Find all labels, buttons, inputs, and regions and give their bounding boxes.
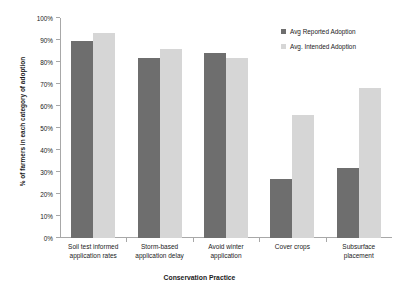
- x-axis-title: Conservation Practice: [0, 274, 399, 281]
- x-axis-category-label-line: Subsurface: [319, 243, 399, 252]
- bar: [204, 53, 226, 238]
- x-axis-category-label: Subsurfaceplacement: [319, 243, 399, 260]
- category-separator-tick: [193, 238, 194, 242]
- legend-item[interactable]: Avg. Intended Adoption: [281, 39, 399, 54]
- y-axis-tick-label: 40%: [40, 146, 53, 153]
- category-separator-tick: [259, 238, 260, 242]
- bar: [160, 49, 182, 238]
- bar-chart: % of farmers in each category of adoptio…: [0, 0, 399, 295]
- y-axis-tick: 90%: [56, 39, 60, 40]
- y-axis-tick-label: 80%: [40, 58, 53, 65]
- legend-item[interactable]: Avg Reported Adoption: [281, 24, 399, 39]
- y-axis-tick: 0%: [56, 237, 60, 238]
- y-axis-tick: 50%: [56, 127, 60, 128]
- legend-label: Avg. Intended Adoption: [290, 43, 356, 50]
- x-axis-category-label-line: placement: [319, 252, 399, 261]
- legend-swatch-icon: [281, 44, 286, 49]
- category-separator-tick: [326, 238, 327, 242]
- bar: [71, 41, 93, 238]
- y-axis-tick: 80%: [56, 61, 60, 62]
- y-axis-tick: 30%: [56, 171, 60, 172]
- y-axis-tick: 40%: [56, 149, 60, 150]
- y-axis-tick: 70%: [56, 83, 60, 84]
- bar: [93, 33, 115, 238]
- y-axis-tick: 20%: [56, 193, 60, 194]
- bar: [359, 88, 381, 238]
- bar: [138, 58, 160, 238]
- y-axis-tick-label: 20%: [40, 190, 53, 197]
- bar: [270, 179, 292, 238]
- y-axis-tick: 60%: [56, 105, 60, 106]
- y-axis-tick-label: 50%: [40, 124, 53, 131]
- x-axis-category-label-line: application: [186, 252, 266, 261]
- legend-swatch-icon: [281, 29, 286, 34]
- y-axis-title: % of farmers in each category of adoptio…: [19, 17, 26, 227]
- bar: [292, 115, 314, 238]
- y-axis-tick-label: 90%: [40, 36, 53, 43]
- y-axis-tick: 100%: [56, 17, 60, 18]
- y-axis-tick-label: 70%: [40, 80, 53, 87]
- y-axis-tick-label: 100%: [37, 14, 53, 21]
- chart-legend: Avg Reported AdoptionAvg. Intended Adopt…: [281, 24, 399, 54]
- y-axis-tick-label: 30%: [40, 168, 53, 175]
- legend-label: Avg Reported Adoption: [290, 28, 356, 35]
- bar: [337, 168, 359, 238]
- bar: [226, 58, 248, 238]
- y-axis-tick-label: 0%: [44, 234, 53, 241]
- y-axis-tick: 10%: [56, 215, 60, 216]
- y-axis-tick-label: 60%: [40, 102, 53, 109]
- y-axis-tick-label: 10%: [40, 212, 53, 219]
- category-separator-tick: [126, 238, 127, 242]
- y-axis-line: [60, 18, 61, 238]
